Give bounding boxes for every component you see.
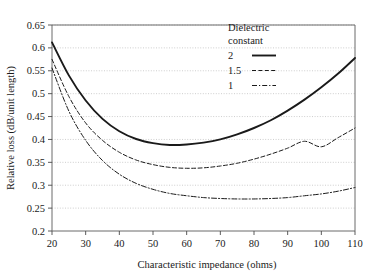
x-axis-title: Characteristic impedance (ohms): [138, 259, 277, 271]
x-tick-label: 100: [313, 238, 329, 249]
series-line-1: [52, 68, 355, 199]
x-tick-label: 40: [114, 238, 125, 249]
y-tick-labels: 0.20.250.30.350.40.450.50.550.60.65: [27, 20, 46, 237]
axes: [52, 25, 355, 231]
legend-title-line2: constant: [228, 35, 263, 46]
x-tick-label: 70: [215, 238, 226, 249]
x-tick-label: 30: [80, 238, 91, 249]
gridlines: [52, 25, 355, 208]
x-tick-label: 50: [148, 238, 159, 249]
y-axis-title: Relative loss (dB/unit length): [5, 66, 17, 190]
y-tick-label: 0.25: [27, 203, 45, 214]
y-tick-label: 0.5: [32, 88, 45, 99]
chart-plot-area: 0.20.250.30.350.40.450.50.550.60.65 2030…: [0, 0, 376, 278]
y-tick-label: 0.45: [27, 111, 45, 122]
x-tick-label: 90: [282, 238, 293, 249]
x-tick-label: 20: [47, 238, 58, 249]
y-tick-label: 0.2: [32, 226, 45, 237]
y-tick-label: 0.55: [27, 65, 45, 76]
legend-label-1: 1: [228, 80, 233, 91]
legend-label-2: 2: [228, 50, 233, 61]
tick-marks: [48, 25, 355, 235]
x-tick-label: 110: [347, 238, 362, 249]
x-tick-label: 60: [181, 238, 192, 249]
legend-title-line1: Dielectric: [228, 22, 270, 33]
data-series: [52, 42, 355, 199]
y-tick-label: 0.4: [32, 134, 46, 145]
y-tick-label: 0.65: [27, 20, 45, 31]
y-tick-label: 0.6: [32, 42, 45, 53]
y-tick-label: 0.3: [32, 180, 45, 191]
chart-legend: Dielectricconstant21.51: [228, 22, 276, 91]
legend-label-1-5: 1.5: [228, 65, 241, 76]
x-tick-labels: 2030405060708090100110: [47, 238, 363, 249]
y-tick-label: 0.35: [27, 157, 45, 168]
chart-figure: 0.20.250.30.350.40.450.50.550.60.65 2030…: [0, 0, 376, 278]
x-tick-label: 80: [249, 238, 260, 249]
